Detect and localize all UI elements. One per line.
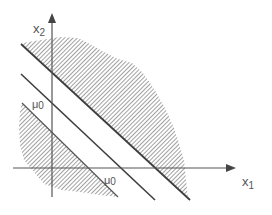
mu-x-intercept-label: μ0 (104, 174, 116, 187)
decision-region-diagram: x2 x1 μ0 μ0 (0, 0, 272, 215)
y-axis-arrow-icon (48, 13, 56, 23)
y-axis-label: x2 (33, 21, 46, 38)
mu-y-intercept-label: μ0 (32, 98, 44, 111)
x-axis-label: x1 (242, 174, 255, 191)
x-axis-arrow-icon (226, 164, 236, 172)
